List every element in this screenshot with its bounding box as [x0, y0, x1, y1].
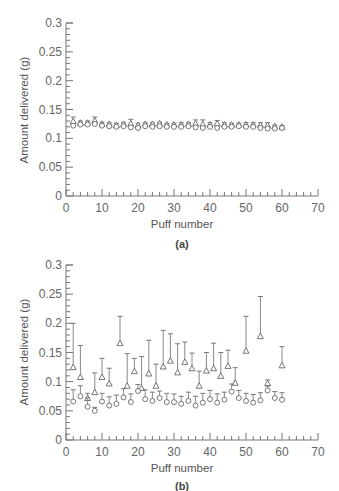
circle-marker — [164, 124, 169, 129]
y-tick-label: 0.05 — [39, 160, 63, 174]
circle-marker — [143, 397, 148, 402]
triangle-marker — [167, 358, 173, 364]
x-axis-title: Puff number — [151, 218, 214, 230]
y-axis-title: Amount delivered (g) — [18, 56, 30, 163]
circle-marker — [107, 124, 112, 129]
y-tick-label: 0.3 — [45, 258, 62, 272]
circle-marker — [128, 400, 133, 405]
circle-marker — [215, 400, 220, 405]
circle-marker — [200, 125, 205, 130]
circle-marker — [172, 400, 177, 405]
triangle-marker — [182, 359, 188, 365]
circle-marker — [85, 404, 90, 409]
triangle-marker — [203, 368, 209, 374]
circle-marker — [244, 398, 249, 403]
circle-marker — [272, 126, 277, 131]
circle-marker — [193, 403, 198, 408]
circle-marker — [186, 398, 191, 403]
circle-marker — [229, 389, 234, 394]
triangle-marker — [131, 368, 137, 374]
circle-marker — [114, 401, 119, 406]
triangle-marker — [211, 365, 217, 371]
x-tick-label: 70 — [311, 201, 325, 215]
circle-marker — [157, 124, 162, 129]
y-axis-title: Amount delivered (g) — [18, 298, 30, 405]
circle-marker — [179, 124, 184, 129]
triangle-marker — [218, 373, 224, 379]
series-circles — [71, 384, 285, 413]
circle-marker — [251, 124, 256, 129]
circle-marker — [186, 124, 191, 129]
triangle-marker — [279, 362, 285, 368]
circle-marker — [121, 124, 126, 129]
y-tick-label: 0.15 — [39, 103, 63, 117]
circle-marker — [128, 125, 133, 130]
x-tick-label: 20 — [131, 445, 145, 459]
circle-marker — [78, 122, 83, 127]
y-tick-label: 0.05 — [39, 404, 63, 418]
triangle-marker — [175, 369, 181, 375]
x-tick-label: 0 — [63, 201, 70, 215]
triangle-marker — [153, 383, 159, 389]
circle-marker — [236, 396, 241, 401]
circle-marker — [265, 388, 270, 393]
circle-marker — [100, 399, 105, 404]
circle-marker — [107, 403, 112, 408]
triangle-marker — [189, 365, 195, 371]
circle-marker — [136, 389, 141, 394]
circle-marker — [200, 400, 205, 405]
x-tick-label: 10 — [95, 201, 109, 215]
circle-marker — [172, 124, 177, 129]
circle-marker — [280, 397, 285, 402]
y-tick-label: 0 — [55, 189, 62, 203]
panel-b: 00.050.10.150.20.250.3010203040506070Puf… — [18, 258, 325, 491]
triangle-marker — [243, 348, 249, 354]
circle-marker — [208, 397, 213, 402]
y-tick-label: 0.2 — [45, 316, 62, 330]
x-tick-label: 30 — [167, 445, 181, 459]
triangle-marker — [77, 374, 83, 380]
x-tick-label: 30 — [167, 201, 181, 215]
circle-marker — [251, 400, 256, 405]
circle-marker — [179, 401, 184, 406]
x-tick-label: 60 — [275, 201, 289, 215]
triangle-marker — [70, 364, 76, 370]
triangle-marker — [265, 380, 271, 386]
triangle-marker — [99, 374, 105, 380]
x-tick-label: 0 — [63, 445, 70, 459]
circle-marker — [193, 125, 198, 130]
circle-marker — [157, 396, 162, 401]
circle-marker — [222, 397, 227, 402]
x-tick-label: 10 — [95, 445, 109, 459]
y-tick-label: 0.25 — [39, 287, 63, 301]
circle-marker — [258, 398, 263, 403]
x-tick-label: 60 — [275, 445, 289, 459]
circle-marker — [222, 124, 227, 129]
circle-marker — [92, 121, 97, 126]
triangle-marker — [92, 389, 98, 395]
x-tick-label: 50 — [239, 201, 253, 215]
triangle-marker — [106, 380, 112, 386]
circle-marker — [150, 124, 155, 129]
circle-marker — [150, 398, 155, 403]
circle-marker — [143, 124, 148, 129]
circle-marker — [258, 125, 263, 130]
circle-marker — [265, 126, 270, 131]
circle-marker — [136, 125, 141, 130]
y-tick-label: 0.2 — [45, 74, 62, 88]
y-tick-label: 0 — [55, 433, 62, 447]
y-tick-label: 0.25 — [39, 45, 63, 59]
x-tick-label: 50 — [239, 445, 253, 459]
circle-marker — [85, 122, 90, 127]
circle-marker — [121, 395, 126, 400]
circle-marker — [71, 399, 76, 404]
circle-marker — [164, 400, 169, 405]
triangle-marker — [146, 371, 152, 377]
circle-marker — [272, 396, 277, 401]
circle-marker — [236, 124, 241, 129]
circle-marker — [244, 124, 249, 129]
circle-marker — [78, 394, 83, 399]
x-tick-label: 40 — [203, 201, 217, 215]
triangle-marker — [160, 364, 166, 370]
y-tick-label: 0.15 — [39, 346, 63, 360]
